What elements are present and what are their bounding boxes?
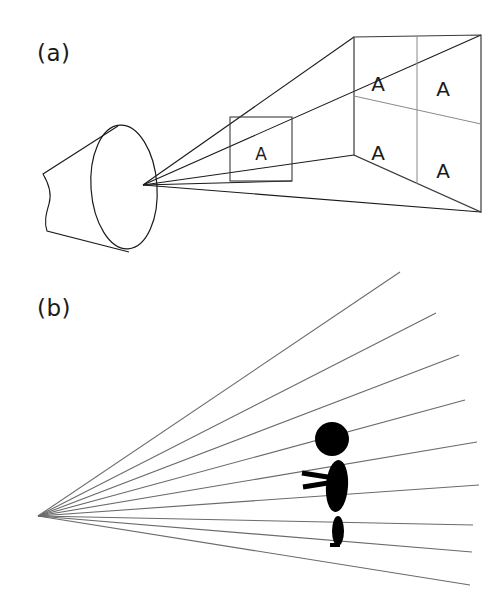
far-plane-letters: A A A A [371,72,450,183]
perspective-ray-9 [38,516,470,585]
perspective-ray-6 [38,485,479,516]
perspective-ray-3 [38,355,459,516]
figure-leg [332,516,344,546]
perspective-ray-lines [38,272,479,585]
perspective-ray-4 [38,400,465,516]
panel-a-diagram: A A A A A [0,0,504,260]
panel-a-label: (a) [37,42,71,65]
walking-figure-silhouette [302,422,350,546]
perspective-ray-8 [38,516,472,552]
eye-lens-ellipse [87,123,161,251]
near-plane-letter-a: A [255,144,267,164]
projection-cone-rays [143,35,481,212]
panel-b-diagram [0,260,504,603]
perspective-ray-2 [38,313,436,516]
far-letter-top-left: A [371,72,385,96]
far-letter-bottom-right: A [436,159,450,183]
far-letter-top-right: A [436,77,450,101]
panel-b-label: (b) [37,297,71,320]
far-plane-grid [354,35,481,212]
figure-head [315,422,349,456]
eye-body-shape [43,126,129,252]
figure-root: A A A A A (a) (b) [0,0,504,603]
perspective-ray-5 [38,442,477,516]
far-letter-bottom-left: A [371,141,385,165]
perspective-ray-7 [38,516,473,525]
